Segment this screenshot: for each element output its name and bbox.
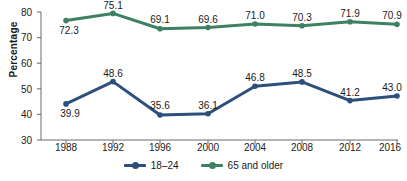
y-axis-ticks: [37, 12, 41, 140]
axis-spines: [41, 12, 398, 140]
x-tick-label: 1988: [55, 142, 77, 153]
x-tick-label: 2012: [339, 142, 361, 153]
data-label-65-and-older: 70.9: [382, 11, 401, 21]
legend-item-65-and-older[interactable]: 65 and older: [201, 160, 284, 171]
series-line-18-24: [63, 79, 400, 118]
x-tick-label: 2008: [291, 142, 313, 153]
legend-item-18-24[interactable]: 18–24: [124, 160, 179, 171]
legend-swatch-icon: [201, 161, 223, 170]
data-label-65-and-older: 69.6: [198, 15, 217, 25]
x-tick-label: 2004: [244, 142, 266, 153]
legend-label: 65 and older: [228, 160, 284, 171]
data-label-18-24: 41.2: [340, 88, 359, 98]
legend-label: 18–24: [151, 160, 179, 171]
data-label-65-and-older: 69.1: [150, 15, 169, 25]
data-label-18-24: 43.0: [382, 83, 401, 93]
x-tick-label: 1996: [149, 142, 171, 153]
x-tick-label: 1992: [102, 142, 124, 153]
data-label-18-24: 48.5: [292, 69, 311, 79]
chart-legend: 18–24 65 and older: [0, 160, 407, 171]
data-label-18-24: 48.6: [103, 69, 122, 79]
data-label-65-and-older: 71.9: [340, 9, 359, 19]
data-label-18-24: 35.6: [150, 101, 169, 111]
data-label-18-24: 46.8: [245, 73, 264, 83]
data-label-65-and-older: 75.1: [103, 1, 122, 11]
data-label-65-and-older: 72.3: [59, 26, 78, 36]
legend-swatch-icon: [124, 161, 146, 170]
x-tick-label: 2000: [197, 142, 219, 153]
data-label-18-24: 39.9: [60, 109, 79, 119]
line-chart: Percentage 80 70 60 50 40 30: [0, 0, 407, 181]
data-label-65-and-older: 70.3: [292, 13, 311, 23]
data-label-18-24: 36.1: [198, 101, 217, 111]
data-label-65-and-older: 71.0: [245, 11, 264, 21]
x-tick-label: 2016: [379, 142, 401, 153]
